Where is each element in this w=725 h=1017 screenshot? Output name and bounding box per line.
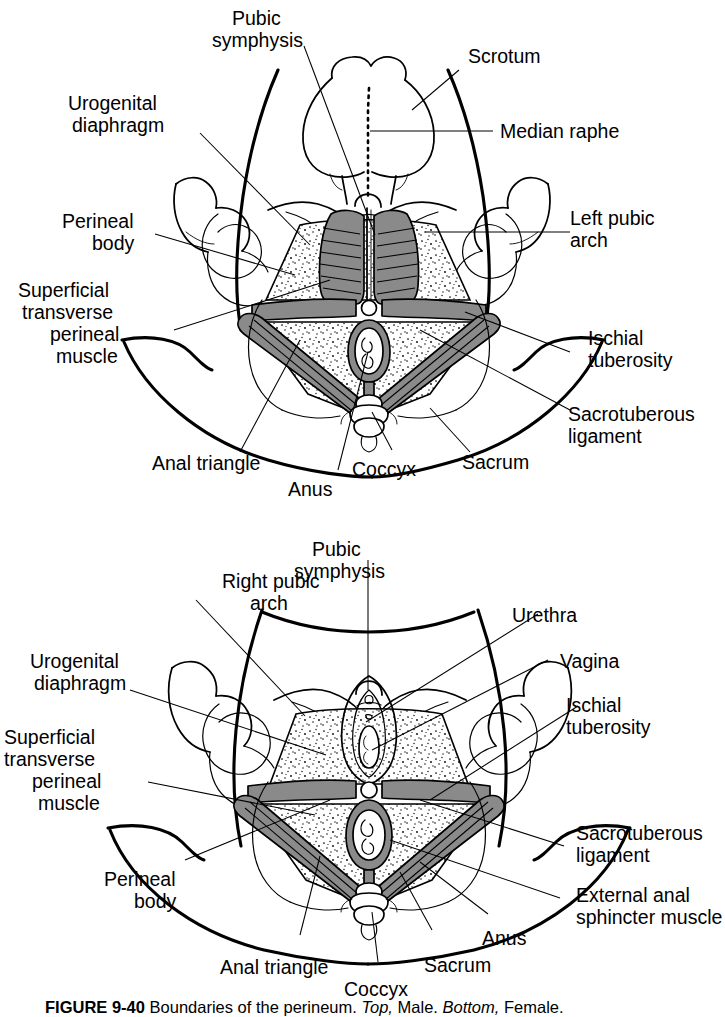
label-female-external-anal-sphincter-line2: sphincter muscle: [576, 906, 722, 928]
label-female-sacrotuberous-line1: Sacrotuberous: [576, 822, 703, 844]
label-female-sacrotuberous-line2: ligament: [576, 844, 650, 866]
label-male-pubic-symphysis-line2: symphysis: [212, 29, 303, 51]
label-male-stpm-line1: Superficial: [18, 279, 109, 301]
label-female-external-anal-sphincter-line1: External anal: [576, 884, 690, 906]
figure-caption-bottom-value: Female.: [504, 998, 564, 1016]
label-male-left-pubic-arch-line1: Left pubic: [570, 207, 655, 229]
label-female-stpm-line1: Superficial: [4, 726, 95, 748]
label-female-vagina: Vagina: [560, 650, 619, 672]
label-male-sacrotuberous-line2: ligament: [568, 425, 642, 447]
label-female-anus: Anus: [482, 927, 527, 949]
figure-caption-top-word: Top,: [361, 998, 393, 1016]
figure-caption-number: FIGURE 9-40: [45, 998, 145, 1016]
label-female-urogenital-diaphragm-line2: diaphragm: [34, 672, 126, 694]
label-female-stpm-line3: perineal: [32, 770, 101, 792]
label-female-pubic-symphysis-line2: symphysis: [294, 560, 385, 582]
label-female-perineal-body-line2: body: [134, 890, 177, 912]
label-female-urethra: Urethra: [512, 604, 577, 626]
label-female-ischial-tuberosity-line1: Ischial: [566, 694, 621, 716]
label-male-perineal-body-line2: body: [92, 232, 135, 254]
label-female-stpm-line4: muscle: [38, 792, 100, 814]
label-male-pubic-symphysis-line1: Pubic: [232, 7, 281, 29]
label-male-sacrum: Sacrum: [462, 451, 529, 473]
label-female-urogenital-diaphragm-line1: Urogenital: [30, 650, 119, 672]
label-male-coccyx: Coccyx: [352, 458, 416, 480]
label-female-sacrum: Sacrum: [424, 954, 491, 976]
figure-caption: FIGURE 9-40 Boundaries of the perineum. …: [45, 997, 705, 1017]
label-female-right-pubic-arch-line2: arch: [250, 592, 288, 614]
figure-caption-text: Boundaries of the perineum.: [150, 998, 357, 1016]
label-female-pubic-symphysis-line1: Pubic: [312, 538, 361, 560]
male-left-hip-bone: [174, 178, 268, 306]
label-male-perineal-body-line1: Perineal: [62, 210, 134, 232]
label-male-ischial-tuberosity-line2: tuberosity: [588, 349, 673, 371]
scrotum-shape: [303, 57, 434, 204]
female-perineum-drawing: Right pubic arch Pubic symphysis Urethra…: [4, 538, 722, 1000]
male-right-hip-bone: [456, 178, 550, 306]
label-female-ischial-tuberosity-line2: tuberosity: [566, 716, 651, 738]
label-female-anal-triangle: Anal triangle: [220, 956, 328, 978]
label-male-ischial-tuberosity-line1: Ischial: [588, 327, 643, 349]
label-male-stpm-line2: transverse: [22, 301, 113, 323]
label-male-anal-triangle: Anal triangle: [152, 452, 260, 474]
label-male-anus: Anus: [288, 478, 333, 500]
male-urogenital-diaphragm-band: [252, 299, 486, 321]
label-male-left-pubic-arch-line2: arch: [570, 229, 608, 251]
figure-caption-top-value: Male.: [398, 998, 438, 1016]
label-female-perineal-body-line1: Perineal: [104, 868, 176, 890]
figure-caption-bottom-word: Bottom,: [443, 998, 500, 1016]
male-perineum-drawing: Pubic symphysis Scrotum Median raphe Uro…: [18, 7, 695, 500]
label-male-median-raphe: Median raphe: [500, 120, 619, 142]
label-male-stpm-line3: perineal: [50, 323, 119, 345]
label-male-scrotum: Scrotum: [468, 45, 541, 67]
label-male-stpm-line4: muscle: [56, 345, 118, 367]
label-female-stpm-line2: transverse: [4, 748, 95, 770]
median-raphe-dashed-line: [368, 88, 369, 196]
label-male-sacrotuberous-line1: Sacrotuberous: [568, 403, 695, 425]
label-male-urogenital-diaphragm-line1: Urogenital: [68, 92, 157, 114]
label-male-urogenital-diaphragm-line2: diaphragm: [72, 114, 164, 136]
